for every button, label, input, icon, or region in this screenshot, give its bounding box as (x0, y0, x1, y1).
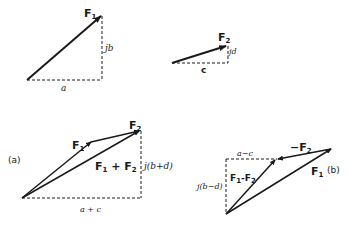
f2-component-diagram (172, 46, 228, 63)
f2-label: F2 (218, 32, 230, 45)
vector-diagram (0, 0, 349, 225)
panel-a-tag: (a) (8, 156, 21, 165)
f1-real-label: a (61, 84, 66, 93)
a-real-label: a + c (80, 206, 101, 214)
f1-imag-label: jb (105, 44, 114, 53)
b-diff-label: F1-F2 (230, 174, 256, 185)
f1-label: F1 (84, 8, 96, 21)
b-f1-label: F1 (311, 166, 323, 179)
f2-real-label: c (201, 66, 206, 75)
f1-component-diagram (27, 16, 102, 80)
b-imag-label: j(b−d) (197, 183, 223, 191)
a-f2-label: F2 (129, 120, 141, 133)
f2-imag-label: jd (229, 48, 237, 56)
b-diff-arrow (226, 160, 275, 214)
f2-vector-arrow (172, 46, 226, 63)
f1-vector-arrow (27, 16, 101, 80)
b-neg-f2-label: −F2 (290, 142, 312, 155)
panel-b-tag: (b) (327, 166, 340, 175)
a-imag-label: j(b+d) (144, 162, 173, 171)
a-sum-label: F1 + F2 (95, 161, 137, 174)
b-real-label: a−c (237, 150, 253, 158)
a-f1-label: F1 (72, 140, 84, 153)
